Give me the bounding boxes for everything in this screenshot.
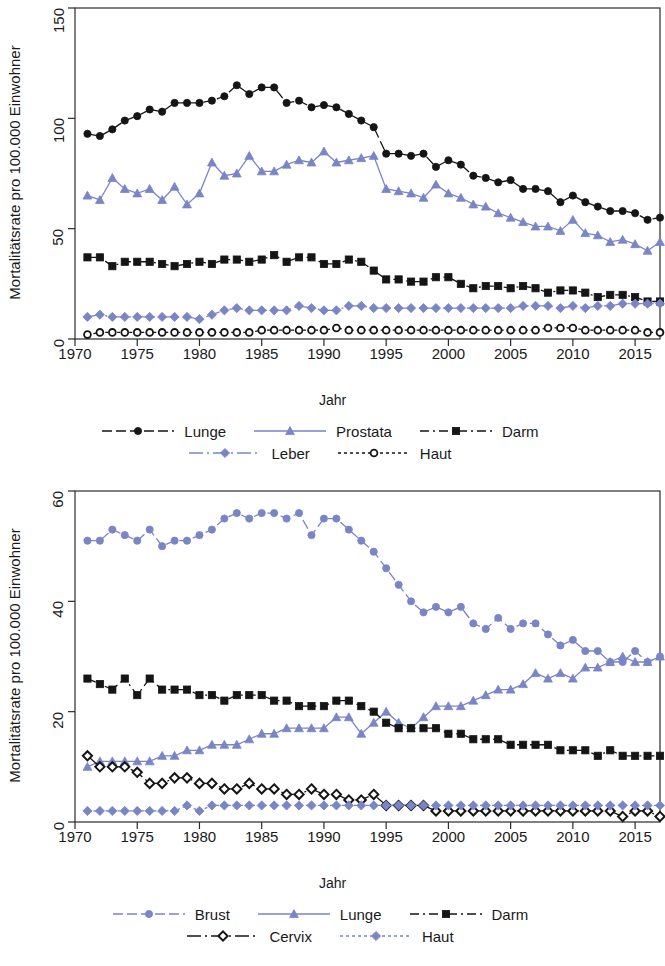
data-point — [657, 329, 664, 336]
data-point — [369, 304, 378, 313]
data-point — [519, 282, 526, 289]
x-tick-label: 1985 — [245, 345, 278, 362]
data-point — [518, 301, 527, 310]
data-point — [469, 200, 478, 208]
data-point — [632, 752, 639, 759]
legend-entry-leber[interactable]: Leber — [187, 445, 335, 462]
data-point — [519, 185, 526, 192]
data-point — [532, 185, 539, 192]
data-point — [182, 312, 191, 321]
legend-entry-prostata[interactable]: Prostata — [252, 423, 418, 440]
legend-entry-brust[interactable]: Brust — [111, 906, 256, 923]
x-tick-labels-women: 1970197519801985199019952000200520102015 — [0, 828, 665, 852]
data-point — [232, 801, 241, 810]
data-point — [245, 779, 254, 788]
data-point — [233, 329, 240, 336]
data-point — [120, 312, 129, 321]
data-point — [332, 306, 341, 315]
data-point — [84, 130, 91, 137]
data-point — [582, 199, 589, 206]
data-point — [108, 312, 117, 321]
data-point — [83, 312, 92, 321]
data-point — [121, 329, 128, 336]
data-point — [196, 692, 203, 699]
data-point — [431, 304, 440, 313]
data-point — [618, 652, 627, 660]
data-point — [258, 692, 265, 699]
data-point — [457, 280, 464, 287]
legend-entry-cervix[interactable]: Cervix — [185, 928, 338, 945]
data-point — [159, 108, 166, 115]
data-point — [294, 301, 303, 310]
data-point — [295, 509, 302, 516]
data-point — [146, 258, 153, 265]
data-point — [146, 106, 153, 113]
data-point — [158, 806, 167, 815]
data-point — [394, 801, 403, 810]
data-point — [308, 104, 315, 111]
data-point — [556, 669, 565, 677]
data-point — [171, 263, 178, 270]
legend-entry-haut[interactable]: Haut — [336, 445, 478, 462]
legend-row: BrustLungeDarm — [0, 903, 665, 925]
data-point — [507, 285, 514, 292]
data-point — [582, 647, 589, 654]
data-point — [195, 779, 204, 788]
data-point — [159, 329, 166, 336]
data-point — [196, 329, 203, 336]
data-point — [207, 310, 216, 319]
data-point — [433, 327, 440, 334]
data-point — [569, 287, 576, 294]
data-point — [246, 90, 253, 97]
data-point — [557, 199, 564, 206]
data-point — [195, 806, 204, 815]
data-point — [245, 735, 254, 743]
legend-entry-lunge[interactable]: Lunge — [256, 906, 408, 923]
data-point — [370, 327, 377, 334]
data-point — [482, 625, 489, 632]
data-point — [345, 526, 352, 533]
legend-label: Brust — [187, 906, 256, 923]
data-point — [644, 216, 651, 223]
data-point — [370, 548, 377, 555]
data-point — [469, 696, 478, 704]
data-point — [109, 526, 116, 533]
data-point — [296, 327, 303, 334]
legend-label: Haut — [412, 445, 478, 462]
data-point — [232, 169, 241, 177]
legend-entry-lunge[interactable]: Lunge — [100, 423, 252, 440]
data-point — [568, 215, 577, 223]
data-point — [594, 752, 601, 759]
legend-entry-darm[interactable]: Darm — [408, 906, 555, 923]
data-point — [195, 189, 204, 197]
data-point — [407, 152, 414, 159]
data-point — [420, 609, 427, 616]
legend-entry-darm[interactable]: Darm — [418, 423, 565, 440]
data-point — [145, 185, 154, 193]
data-point — [271, 84, 278, 91]
data-point — [482, 174, 489, 181]
data-point — [159, 543, 166, 550]
data-point — [594, 293, 601, 300]
data-point — [420, 725, 427, 732]
legend-entry-haut[interactable]: Haut — [338, 928, 480, 945]
data-point — [544, 289, 551, 296]
data-point — [557, 642, 564, 649]
data-point — [507, 177, 514, 184]
data-point — [656, 214, 663, 221]
data-point — [407, 278, 414, 285]
data-point — [656, 238, 665, 246]
data-point — [221, 697, 228, 704]
data-point — [383, 276, 390, 283]
data-point — [520, 327, 527, 334]
data-point — [643, 246, 652, 254]
data-point — [121, 675, 128, 682]
data-point — [655, 801, 664, 810]
data-point — [195, 315, 204, 324]
legend-key-leber — [187, 446, 263, 460]
data-point — [183, 99, 190, 106]
data-point — [632, 327, 639, 334]
data-point — [233, 509, 240, 516]
data-point — [457, 603, 464, 610]
x-tick-label: 2005 — [494, 828, 527, 845]
